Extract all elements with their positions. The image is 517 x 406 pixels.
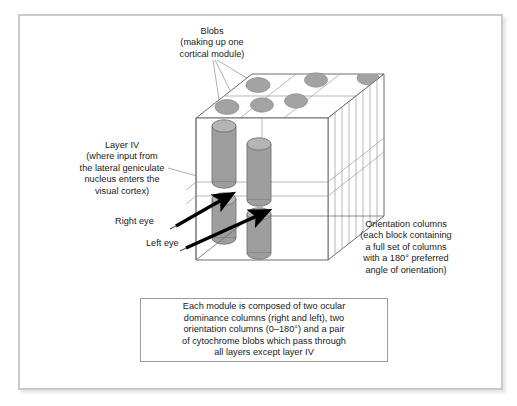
label-layer-iv: Layer IV (where input from the lateral g… — [44, 140, 200, 197]
label-left-eye: Left eye — [146, 238, 212, 249]
caption-text: Each module is composed of two ocular do… — [176, 301, 352, 359]
figure-root: Blobs (making up one cortical module) La… — [0, 0, 517, 406]
label-blobs: Blobs (making up one cortical module) — [152, 26, 272, 60]
caption-box: Each module is composed of two ocular do… — [140, 298, 388, 362]
label-right-eye: Right eye — [115, 216, 187, 227]
label-orientation-columns: Orientation columns (each block containi… — [330, 219, 482, 276]
